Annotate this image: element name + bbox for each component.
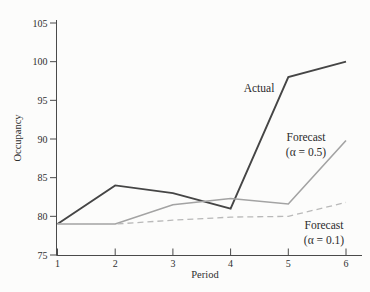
y-axis-title: Occupancy bbox=[12, 114, 23, 162]
x-tick-label: 3 bbox=[170, 258, 175, 269]
x-tick-label: 4 bbox=[228, 258, 233, 269]
x-tick-label: 5 bbox=[286, 258, 291, 269]
y-tick-label: 90 bbox=[38, 134, 48, 145]
x-axis-title: Period bbox=[191, 269, 219, 280]
y-tick-label: 105 bbox=[33, 18, 48, 29]
occupancy-forecast-figure: 7580859095100105123456PeriodOccupancyAct… bbox=[0, 0, 370, 292]
annotation-label-0-line-0: Actual bbox=[244, 82, 275, 94]
y-tick-label: 80 bbox=[38, 211, 48, 222]
series-line-forecast-0.1 bbox=[58, 202, 347, 224]
y-tick-label: 75 bbox=[38, 250, 48, 261]
annotation-label-1-line-1: (α = 0.5) bbox=[286, 146, 326, 159]
annotation-label-1-line-0: Forecast bbox=[287, 131, 327, 143]
chart-svg: 7580859095100105123456PeriodOccupancyAct… bbox=[0, 0, 370, 292]
y-tick-label: 95 bbox=[38, 95, 48, 106]
x-tick-label: 6 bbox=[344, 258, 349, 269]
y-tick-label: 85 bbox=[38, 172, 48, 183]
annotation-label-2-line-1: (α = 0.1) bbox=[304, 234, 344, 247]
x-tick-label: 1 bbox=[55, 258, 60, 269]
annotation-label-2-line-0: Forecast bbox=[305, 219, 345, 231]
x-tick-label: 2 bbox=[113, 258, 118, 269]
y-tick-label: 100 bbox=[33, 56, 48, 67]
